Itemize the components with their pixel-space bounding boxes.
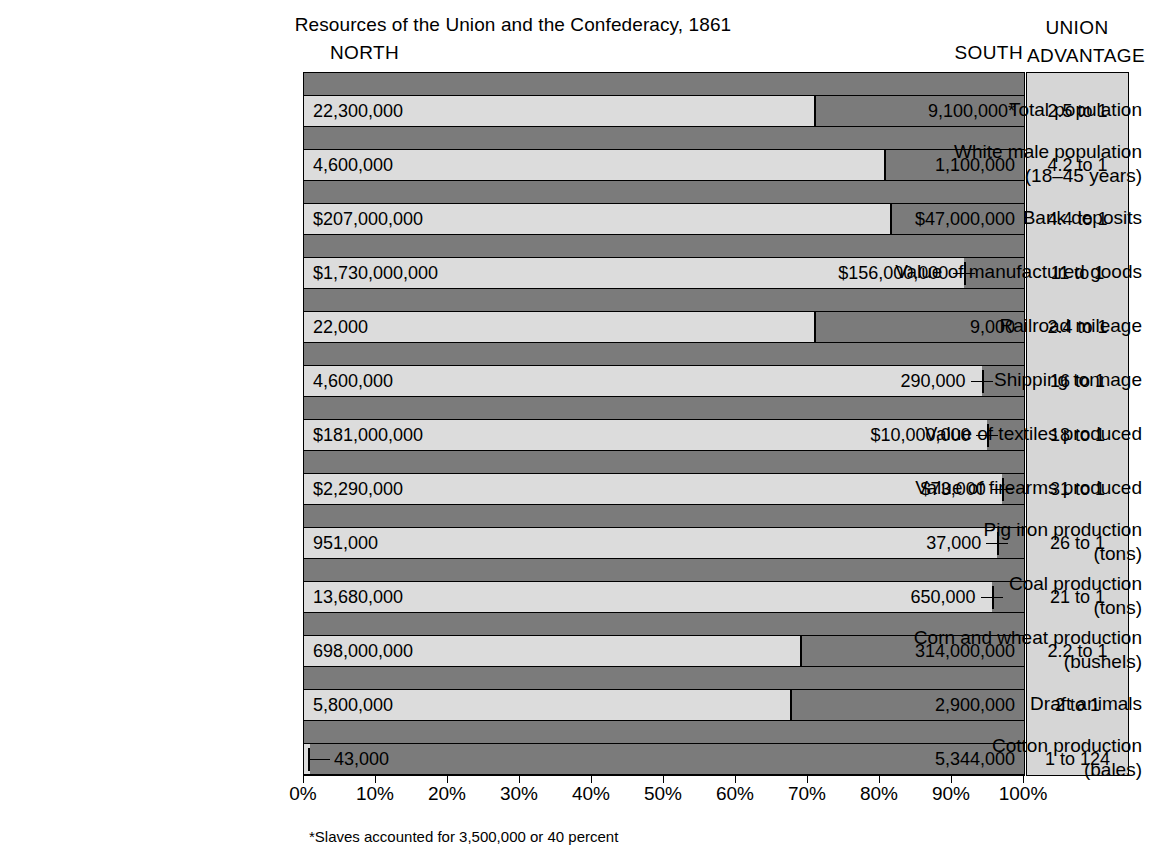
- axis-tick: [303, 774, 304, 783]
- row-label-line2: (tons): [858, 542, 1142, 566]
- axis-tick: [735, 774, 736, 783]
- row-label-line2: (18–45 years): [858, 164, 1142, 188]
- column-header-south: SOUTH: [823, 42, 1023, 64]
- bar-divider: [814, 312, 816, 342]
- row-label-line1: Shipping tonnage: [858, 368, 1142, 392]
- row-label-line2: (tons): [858, 596, 1142, 620]
- value-north: 22,000: [313, 318, 368, 336]
- union-header-line1: UNION: [1027, 14, 1127, 42]
- column-header-union-advantage: UNION ADVANTAGE: [1027, 14, 1127, 70]
- footnote: *Slaves accounted for 3,500,000 or 40 pe…: [309, 828, 618, 845]
- axis-tick: [591, 774, 592, 783]
- value-north: 22,300,000: [313, 102, 403, 120]
- bar-divider: [790, 690, 792, 720]
- row-label: White male population(18–45 years): [858, 140, 1154, 188]
- axis-tick: [519, 774, 520, 783]
- row-label: Corn and wheat production(bushels): [858, 626, 1154, 674]
- row-label: Value of firearms produced: [858, 476, 1154, 500]
- row-label: Pig iron production(tons): [858, 518, 1154, 566]
- row-label: Railroad mileage: [858, 314, 1154, 338]
- axis-tick-label: 70%: [788, 783, 826, 805]
- bar-tick-marker: [308, 759, 330, 760]
- value-north: 13,680,000: [313, 588, 403, 606]
- axis-tick: [375, 774, 376, 783]
- row-label: Shipping tonnage: [858, 368, 1154, 392]
- value-north: 5,800,000: [313, 696, 393, 714]
- value-north: 951,000: [313, 534, 378, 552]
- value-north: 43,000: [334, 750, 389, 768]
- row-label: Total population: [858, 98, 1154, 122]
- row-label-line1: White male population: [858, 140, 1142, 164]
- row-label: Bank deposits: [858, 206, 1154, 230]
- axis-tick-label: 50%: [644, 783, 682, 805]
- axis-tick-label: 60%: [716, 783, 754, 805]
- row-label: Value of manufactured goods: [858, 260, 1154, 284]
- row-label-line1: Draft animals: [858, 692, 1142, 716]
- union-header-line2: ADVANTAGE: [1027, 42, 1127, 70]
- axis-tick: [1023, 774, 1024, 783]
- x-axis-labels: 0%10%20%30%40%50%60%70%80%90%100%: [0, 783, 1154, 811]
- row-label-line1: Value of firearms produced: [858, 476, 1142, 500]
- row-label: Value of textiles produced: [858, 422, 1154, 446]
- row-label-line1: Value of manufactured goods: [858, 260, 1142, 284]
- row-label: Coal production(tons): [858, 572, 1154, 620]
- bar-divider: [814, 96, 816, 126]
- axis-tick-label: 100%: [999, 783, 1048, 805]
- row-label-line1: Value of textiles produced: [858, 422, 1142, 446]
- row-label: Draft animals: [858, 692, 1154, 716]
- row-label-line1: Total population: [858, 98, 1142, 122]
- row-label-line1: Bank deposits: [858, 206, 1142, 230]
- row-label-line1: Railroad mileage: [858, 314, 1142, 338]
- value-north: $1,730,000,000: [313, 264, 438, 282]
- axis-tick-label: 10%: [356, 783, 394, 805]
- axis-tick-label: 0%: [289, 783, 316, 805]
- resources-chart: Resources of the Union and the Confedera…: [0, 0, 1154, 865]
- axis-tick: [663, 774, 664, 783]
- axis-tick: [879, 774, 880, 783]
- row-label-line1: Coal production: [858, 572, 1142, 596]
- value-north: $2,290,000: [313, 480, 403, 498]
- value-north: 4,600,000: [313, 372, 393, 390]
- value-north: $207,000,000: [313, 210, 423, 228]
- bar-divider: [800, 636, 802, 666]
- bar-segment-north: [304, 312, 815, 342]
- axis-tick: [951, 774, 952, 783]
- column-header-north: NORTH: [330, 42, 399, 64]
- row-label-line1: Cotton production: [858, 734, 1142, 758]
- value-north: $181,000,000: [313, 426, 423, 444]
- axis-tick-label: 90%: [932, 783, 970, 805]
- axis-tick: [807, 774, 808, 783]
- value-north: 698,000,000: [313, 642, 413, 660]
- row-label-line2: (bushels): [858, 650, 1142, 674]
- axis-tick: [447, 774, 448, 783]
- value-north: 4,600,000: [313, 156, 393, 174]
- axis-tick-label: 80%: [860, 783, 898, 805]
- axis-tick-label: 40%: [572, 783, 610, 805]
- chart-title: Resources of the Union and the Confedera…: [0, 14, 1026, 36]
- axis-tick-label: 20%: [428, 783, 466, 805]
- x-axis-ticks: [303, 774, 1025, 783]
- row-label-line1: Corn and wheat production: [858, 626, 1142, 650]
- axis-tick-label: 30%: [500, 783, 538, 805]
- row-label-line1: Pig iron production: [858, 518, 1142, 542]
